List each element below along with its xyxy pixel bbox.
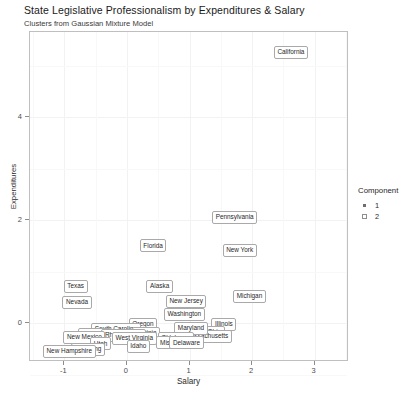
point-label: New Hampshire — [43, 345, 96, 358]
x-tick-mark — [251, 361, 252, 365]
gridline-horizontal — [30, 117, 347, 118]
x-tick-label: 0 — [116, 366, 136, 375]
y-tick-mark — [25, 219, 29, 220]
legend-label: 1 — [375, 201, 379, 210]
legend-title: Component — [358, 186, 416, 195]
chart-subtitle: Clusters from Gaussian Mixture Model — [24, 19, 153, 28]
gridline-vertical-minor — [96, 32, 97, 360]
gridline-vertical — [64, 32, 65, 360]
gridline-horizontal-minor — [30, 66, 347, 67]
gridline-vertical — [252, 32, 253, 360]
y-tick-mark — [25, 322, 29, 323]
legend-marker-open-square-icon — [358, 214, 371, 218]
x-tick-label: -1 — [53, 366, 73, 375]
y-tick-label: 2 — [4, 215, 22, 224]
y-axis-label: Expenditures — [9, 152, 18, 222]
x-tick-mark — [189, 361, 190, 365]
y-tick-mark — [25, 116, 29, 117]
x-axis-label: Salary — [29, 377, 348, 386]
point-label: California — [274, 46, 308, 59]
point-label: Delaware — [169, 336, 203, 349]
legend-marker-filled-square-icon — [358, 204, 371, 207]
y-tick-label: 4 — [4, 112, 22, 121]
point-label: New Jersey — [166, 295, 207, 308]
legend-item-2[interactable]: 2 — [358, 211, 416, 222]
plot-panel: CaliforniaPennsylvaniaNew YorkFloridaMic… — [29, 31, 348, 361]
gridline-horizontal-minor — [30, 169, 347, 170]
legend-label: 2 — [375, 212, 379, 221]
x-tick-label: 3 — [304, 366, 324, 375]
x-tick-mark — [314, 361, 315, 365]
x-tick-label: 1 — [179, 366, 199, 375]
legend-item-1[interactable]: 1 — [358, 200, 416, 211]
gridline-vertical — [127, 32, 128, 360]
point-label: Pennsylvania — [212, 211, 257, 224]
chart-root: State Legislative Professionalism by Exp… — [0, 0, 416, 402]
gridline-vertical-minor — [33, 32, 34, 360]
legend: Component 1 2 — [358, 186, 416, 222]
x-tick-label: 2 — [241, 366, 261, 375]
point-label: Texas — [64, 280, 88, 293]
point-label: Alaska — [146, 280, 172, 293]
point-label: Michigan — [233, 290, 266, 303]
gridline-vertical-minor — [346, 32, 347, 360]
point-label: Florida — [140, 239, 167, 252]
y-tick-label: 0 — [4, 318, 22, 327]
gridline-vertical-minor — [283, 32, 284, 360]
gridline-horizontal — [30, 220, 347, 221]
point-label: Nevada — [62, 296, 91, 309]
gridline-vertical-minor — [158, 32, 159, 360]
gridline-vertical — [315, 32, 316, 360]
gridline-horizontal-minor — [30, 272, 347, 273]
x-tick-mark — [126, 361, 127, 365]
chart-title: State Legislative Professionalism by Exp… — [24, 4, 305, 16]
gridline-horizontal-minor — [30, 375, 347, 376]
point-label: Idaho — [127, 340, 150, 353]
point-label: Washington — [164, 308, 205, 321]
point-label: New York — [223, 244, 257, 257]
gridline-vertical-minor — [221, 32, 222, 360]
x-tick-mark — [63, 361, 64, 365]
